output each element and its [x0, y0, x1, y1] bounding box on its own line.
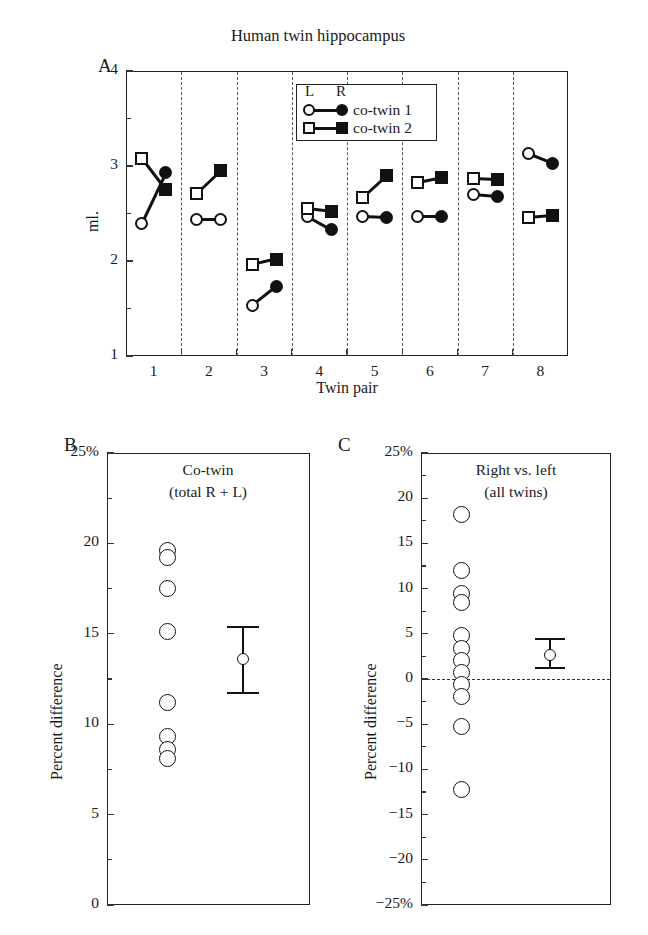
panel-c-y-tick-major: [421, 452, 428, 453]
panel-a-y-tick-major: [126, 260, 133, 261]
panel-a-y-tick-minor: [126, 308, 131, 309]
panel-c-y-tick-major: [421, 769, 428, 770]
panel-b-y-tick-label: 0: [49, 894, 99, 912]
panel-a-marker-right-circle-open: [214, 213, 227, 226]
panel-c-errorbar-cap-upper: [535, 638, 565, 640]
panel-b-data-point: [159, 549, 176, 566]
panel-c-y-tick-minor: [421, 882, 426, 883]
panel-c-data-point: [453, 594, 470, 611]
panel-b-y-tick-label: 10: [49, 713, 99, 731]
panel-c-y-tick-major: [421, 633, 428, 634]
panel-a-category-divider: [292, 72, 293, 356]
panel-c-y-tick-label: −10: [359, 758, 413, 776]
panel-c-y-tick-label: 20: [359, 487, 413, 505]
panel-a-category-divider: [513, 72, 514, 356]
panel-b-errorbar-cap-lower: [227, 692, 259, 694]
panel-c-y-tick-minor: [421, 611, 426, 612]
panel-c-y-tick-major: [421, 724, 428, 725]
panel-c-y-tick-minor: [421, 837, 426, 838]
panel-b-y-tick-major: [107, 543, 114, 544]
panel-a-marker-right-circle-filled: [491, 190, 504, 203]
panel-a-x-tick-label: 4: [299, 362, 339, 380]
panel-a-y-tick-major: [126, 355, 133, 356]
panel-b-y-tick-minor: [107, 678, 112, 679]
panel-c-data-point: [453, 781, 470, 798]
panel-c-y-tick-major: [421, 904, 428, 905]
panel-b-y-tick-minor: [107, 498, 112, 499]
panel-b-data-point: [159, 750, 176, 767]
panel-c-y-tick-minor: [421, 701, 426, 702]
panel-a-x-tick-label: 1: [134, 362, 174, 380]
legend-header-left: L: [305, 83, 314, 100]
panel-b-data-point: [159, 623, 176, 640]
panel-b-y-tick-major: [107, 904, 114, 905]
panel-a-marker-left-circle-open: [246, 299, 259, 312]
panel-b-y-tick-minor: [107, 859, 112, 860]
legend-label-cotwin-2: co-twin 2: [353, 119, 412, 137]
panel-b-errorbar-cap-upper: [227, 626, 259, 628]
panel-a-legend: L R co-twin 1 co-twin 2: [296, 84, 437, 141]
legend-marker-square-filled: [336, 122, 348, 134]
panel-a-y-tick-major: [126, 70, 133, 71]
panel-a-x-tick-label: 2: [189, 362, 229, 380]
panel-b-y-tick-major: [107, 633, 114, 634]
panel-c-y-tick-label: 0: [359, 668, 413, 686]
panel-c-data-point: [453, 718, 470, 735]
panel-c-y-tick-major: [421, 814, 428, 815]
panel-c-title-line2: (all twins): [436, 483, 596, 501]
panel-c-y-tick-minor: [421, 791, 426, 792]
panel-b-y-tick-label: 25%: [49, 442, 99, 460]
panel-a-category-divider: [181, 72, 182, 356]
panel-a-y-tick-minor: [126, 213, 131, 214]
panel-c-y-tick-label: 25%: [359, 442, 413, 460]
panel-b-y-tick-major: [107, 814, 114, 815]
panel-a-marker-right-square-filled: [159, 183, 172, 196]
panel-a-y-axis-title: ml.: [84, 211, 102, 232]
panel-a-y-tick-label: 1: [76, 345, 118, 363]
panel-b-mean-marker: [237, 653, 249, 665]
panel-b-data-point: [159, 580, 176, 597]
panel-c-data-point: [453, 562, 470, 579]
panel-a-marker-left-square-open: [467, 172, 480, 185]
panel-a-marker-right-circle-filled: [546, 157, 559, 170]
panel-a-marker-right-square-filled: [546, 209, 559, 222]
panel-c-zero-reference-line: [422, 679, 610, 680]
panel-c-y-tick-label: −20: [359, 849, 413, 867]
panel-a-marker-right-circle-filled: [380, 211, 393, 224]
panel-b-title-line2: (total R + L): [128, 483, 288, 501]
panel-a-marker-right-circle-filled: [270, 280, 283, 293]
panel-a-x-tick-label: 3: [244, 362, 284, 380]
panel-c-y-tick-minor: [421, 656, 426, 657]
panel-a-marker-right-square-filled: [491, 173, 504, 186]
legend-marker-circle-filled: [336, 104, 348, 116]
panel-c-y-tick-major: [421, 588, 428, 589]
panel-a-marker-left-circle-open: [467, 188, 480, 201]
panel-b-data-point: [159, 694, 176, 711]
panel-c-y-tick-minor: [421, 746, 426, 747]
panel-a-y-tick-minor: [126, 118, 131, 119]
panel-c-y-tick-major: [421, 498, 428, 499]
legend-header-right: R: [336, 83, 346, 100]
figure-title: Human twin hippocampus: [148, 26, 488, 46]
panel-a-category-divider: [458, 72, 459, 356]
panel-b-y-tick-major: [107, 452, 114, 453]
panel-a-marker-left-circle-open: [135, 217, 148, 230]
panel-a-marker-right-square-filled: [214, 164, 227, 177]
panel-a-marker-left-square-open: [356, 191, 369, 204]
panel-a-marker-left-square-open: [190, 187, 203, 200]
panel-c-errorbar-cap-lower: [535, 667, 565, 669]
panel-c-y-tick-label: −5: [359, 713, 413, 731]
panel-a-marker-left-square-open: [411, 176, 424, 189]
panel-a-marker-left-square-open: [522, 211, 535, 224]
panel-a-y-tick-label: 4: [76, 60, 118, 78]
panel-b-plot-frame: [107, 453, 310, 905]
panel-a-marker-right-circle-filled: [325, 223, 338, 236]
panel-a-marker-left-circle-open: [522, 147, 535, 160]
panel-c-y-tick-label: −25%: [359, 894, 413, 912]
panel-a-marker-left-square-open: [246, 258, 259, 271]
panel-b-y-tick-minor: [107, 588, 112, 589]
panel-a-marker-right-square-filled: [325, 205, 338, 218]
panel-c-data-point: [453, 688, 470, 705]
panel-a-marker-left-circle-open: [190, 213, 203, 226]
panel-b-title-line1: Co-twin: [128, 461, 288, 479]
